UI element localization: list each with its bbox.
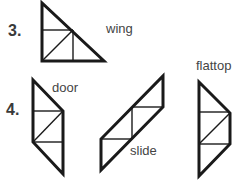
door-shape bbox=[33, 80, 63, 174]
slide-shape bbox=[101, 76, 163, 170]
tangram-diagram bbox=[0, 0, 241, 192]
flattop-shape bbox=[199, 82, 230, 176]
wing-shape bbox=[42, 3, 104, 61]
